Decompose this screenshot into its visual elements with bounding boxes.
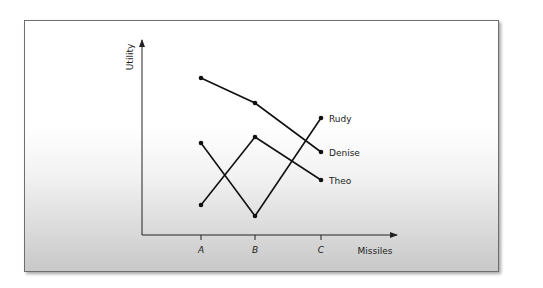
label-rudy: Rudy [329, 114, 352, 124]
series-rudy [199, 116, 324, 219]
line-chart: A B C Missiles Utility Rudy Denise Theo [0, 0, 543, 288]
y-axis-label: Utility [125, 43, 135, 70]
x-tick-label-a: A [197, 245, 204, 255]
x-tick-label-c: C [318, 245, 325, 255]
series-theo [199, 137, 324, 216]
label-denise: Denise [329, 148, 360, 158]
x-axis-label: Missiles [358, 246, 393, 256]
label-theo: Theo [328, 176, 352, 186]
x-tick-label-b: B [252, 245, 258, 255]
